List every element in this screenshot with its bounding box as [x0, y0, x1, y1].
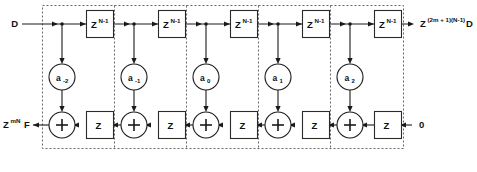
coefficient-branch-4: a 1 — [265, 24, 291, 112]
top-delay-3-exponent: N-1 — [243, 17, 254, 24]
output-label-top-suffix: D — [466, 18, 473, 29]
mult-out-arrow-3 — [203, 106, 208, 112]
top-arrow-3 — [196, 21, 202, 26]
top-delay-4-base: Z — [307, 19, 313, 30]
top-arrow-box-in-4 — [296, 21, 302, 26]
mult-out-arrow-5 — [347, 106, 352, 112]
multiplier-circle-4 — [265, 64, 291, 90]
top-delay-5-base: Z — [379, 19, 385, 30]
top-delay-box-5: Z N-1 — [375, 11, 402, 38]
bottom-delay-3-base: Z — [240, 120, 246, 131]
top-arrow-box-in-1 — [80, 21, 86, 26]
top-delay-box-3: Z N-1 — [231, 11, 258, 38]
output-label-top-exponent: (2m + 1)(N-1) — [428, 16, 466, 23]
bottom-delay-box-2: Z — [159, 112, 186, 139]
coefficient-1-base: a — [56, 73, 61, 83]
coefficient-3-base: a — [200, 73, 205, 83]
bottom-delay-1-base: Z — [96, 120, 102, 131]
coefficient-branch-3: a 0 — [193, 24, 219, 112]
tap-down-arrow-3 — [203, 58, 208, 64]
bottom-delay-2-base: Z — [168, 120, 174, 131]
top-delay-box-2: Z N-1 — [159, 11, 186, 38]
multiplier-circle-5 — [337, 64, 363, 90]
top-delay-2-exponent: N-1 — [171, 17, 182, 24]
bottom-delay-box-5: Z — [375, 112, 402, 139]
top-arrow-box-in-5 — [368, 21, 374, 26]
coefficient-1-sub: -2 — [63, 78, 69, 84]
coefficient-branch-2: a -1 — [121, 24, 147, 112]
mult-out-arrow-2 — [131, 106, 136, 112]
summer-2 — [121, 112, 147, 138]
coefficient-branch-1: a -2 — [49, 24, 75, 112]
top-arrow-5 — [340, 21, 346, 26]
top-delay-box-4: Z N-1 — [303, 11, 330, 38]
output-label-top-base: Z — [420, 18, 426, 29]
tap-down-arrow-2 — [131, 58, 136, 64]
mult-out-arrow-1 — [59, 106, 64, 112]
tap-down-arrow-5 — [347, 58, 352, 64]
top-delay-2-base: Z — [163, 19, 169, 30]
signal-flow-graph: Z N-1 Z N-1 Z N-1 Z N-1 Z N-1 — [0, 0, 477, 172]
bottom-arrow-out — [33, 122, 39, 127]
top-delay-4-exponent: N-1 — [315, 17, 326, 24]
bottom-delay-box-3: Z — [231, 112, 258, 139]
diagram-canvas: Z N-1 Z N-1 Z N-1 Z N-1 Z N-1 — [0, 0, 477, 172]
top-arrow-box-in-3 — [224, 21, 230, 26]
coefficient-branch-5: a 2 — [337, 24, 363, 112]
top-arrow-box-in-2 — [152, 21, 158, 26]
bottom-delay-box-1: Z — [87, 112, 114, 139]
top-arrow-1 — [52, 21, 58, 26]
multiplier-circle-1 — [49, 64, 75, 90]
bottom-delay-5-base: Z — [384, 120, 390, 131]
top-arrow-out — [408, 21, 414, 26]
tap-down-arrow-1 — [59, 58, 64, 64]
coefficient-5-base: a — [345, 73, 350, 83]
top-delay-box-1: Z N-1 — [87, 11, 114, 38]
top-arrow-4 — [268, 21, 274, 26]
top-delay-1-exponent: N-1 — [99, 17, 110, 24]
coefficient-2-base: a — [128, 73, 133, 83]
tap-down-arrow-4 — [275, 58, 280, 64]
mult-out-arrow-4 — [275, 106, 280, 112]
bottom-delay-box-4: Z — [303, 112, 330, 139]
summer-1 — [49, 112, 75, 138]
summer-5 — [337, 112, 363, 138]
summer-3 — [193, 112, 219, 138]
output-label-bottom-exponent: mN — [11, 117, 22, 124]
summer-4 — [265, 112, 291, 138]
top-signal-path — [22, 21, 414, 26]
top-delay-3-base: Z — [235, 19, 241, 30]
top-delay-1-base: Z — [91, 19, 97, 30]
output-label-bottom-base: Z — [3, 119, 9, 130]
top-arrow-2 — [124, 21, 130, 26]
coefficient-2-sub: -1 — [135, 78, 141, 84]
coefficient-4-base: a — [273, 73, 278, 83]
input-label-d: D — [11, 18, 18, 29]
multiplier-circle-2 — [121, 64, 147, 90]
output-label-bottom-suffix: F — [24, 119, 30, 130]
multiplier-circle-3 — [193, 64, 219, 90]
input-label-zero: 0 — [419, 119, 424, 130]
top-delay-5-exponent: N-1 — [387, 17, 398, 24]
bottom-delay-4-base: Z — [312, 120, 318, 131]
